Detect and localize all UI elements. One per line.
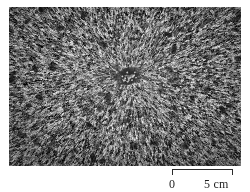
specimen-photograph [9, 7, 241, 166]
scale-bar-tick-end [232, 169, 233, 175]
scale-bar-tick-start [172, 169, 173, 175]
scale-bar-start-label: 0 [169, 177, 175, 191]
scale-bar-bracket [172, 169, 233, 176]
scale-bar-labels: 0 5 cm [167, 177, 238, 191]
figure-root: 0 5 cm [0, 0, 250, 192]
scale-bar: 0 5 cm [172, 169, 233, 191]
specimen-photograph-image [9, 7, 241, 166]
scale-bar-rule [172, 169, 233, 170]
scale-bar-end-label: 5 cm [204, 177, 228, 191]
